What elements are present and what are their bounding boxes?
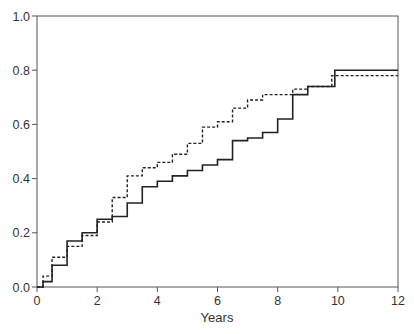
x-tick-label: 12 [391, 294, 405, 308]
plot-frame [37, 16, 398, 287]
x-tick-label: 2 [94, 294, 101, 308]
x-tick-label: 10 [331, 294, 345, 308]
series-group [37, 70, 398, 287]
y-tick-label: 0.4 [13, 172, 30, 186]
x-tick-label: 6 [214, 294, 221, 308]
y-tick-label: 0.8 [13, 64, 30, 78]
x-axis-label: Years [201, 310, 234, 325]
dashed-curve [37, 76, 398, 287]
axes: 0246810120.00.20.40.60.81.0 [13, 10, 405, 309]
chart: 0246810120.00.20.40.60.81.0 Years [0, 0, 414, 334]
y-tick-label: 1.0 [13, 10, 30, 24]
y-tick-label: 0.0 [13, 281, 30, 295]
x-tick-label: 8 [274, 294, 281, 308]
solid-curve [37, 70, 398, 287]
x-tick-label: 4 [154, 294, 161, 308]
x-tick-label: 0 [34, 294, 41, 308]
y-tick-label: 0.2 [13, 226, 30, 240]
y-tick-label: 0.6 [13, 118, 30, 132]
